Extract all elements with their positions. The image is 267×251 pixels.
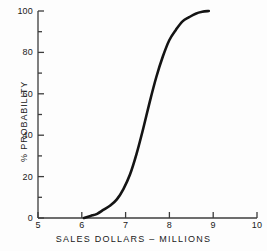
y-tick-label: 100 bbox=[6, 6, 33, 16]
x-tick-label: 5 bbox=[35, 220, 40, 230]
y-tick-label: 80 bbox=[6, 47, 33, 57]
y-axis-title: % PROBABILITY bbox=[19, 81, 29, 162]
x-tick-label: 9 bbox=[211, 220, 216, 230]
x-tick-label: 10 bbox=[252, 220, 262, 230]
y-tick-label: 20 bbox=[6, 172, 33, 182]
x-axis-ticks bbox=[38, 212, 257, 218]
x-axis-title: SALES DOLLARS – MILLIONS bbox=[0, 234, 267, 244]
probability-curve bbox=[84, 11, 209, 218]
y-tick-label: 0 bbox=[6, 213, 33, 223]
chart-plot-area bbox=[0, 0, 267, 251]
x-tick-label: 7 bbox=[123, 220, 128, 230]
x-tick-label: 6 bbox=[79, 220, 84, 230]
probability-sales-chart: 5678910 020406080100 SALES DOLLARS – MIL… bbox=[0, 0, 267, 251]
x-tick-label: 8 bbox=[167, 220, 172, 230]
